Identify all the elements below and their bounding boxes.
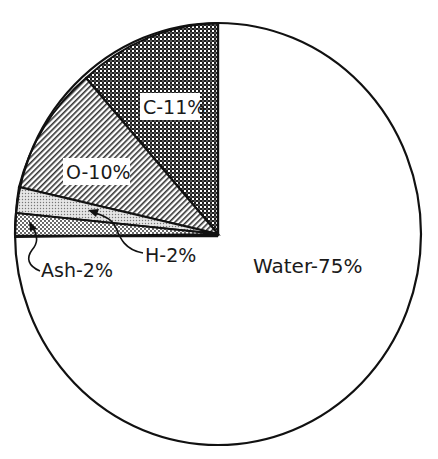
label-ash: Ash-2% [41,259,113,281]
pie-chart: C-11% O-10% H-2% Ash-2% Water-75% [0,0,438,459]
label-o: O-10% [66,161,131,183]
label-h: H-2% [145,244,196,266]
label-water: Water-75% [253,254,363,278]
label-c: C-11% [143,96,205,118]
